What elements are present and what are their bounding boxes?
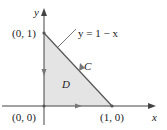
point-label-0-1: (0, 1): [12, 27, 36, 40]
path-label-c: C: [84, 60, 92, 72]
point-0-0: [42, 104, 45, 107]
x-axis-arrow-icon: [148, 103, 156, 109]
y-axis-arrow-icon: [41, 8, 47, 16]
curve-label: y = 1 − x: [78, 27, 118, 39]
green-theorem-diagram: (0, 1) (0, 0) (1, 0) y x y = 1 − x C D: [0, 0, 167, 130]
point-label-0-0: (0, 0): [12, 111, 36, 124]
point-1-0: [110, 104, 113, 107]
x-axis-label: x: [151, 111, 157, 123]
point-label-1-0: (1, 0): [100, 111, 124, 124]
point-0-1: [42, 31, 45, 34]
y-axis-label: y: [33, 6, 39, 18]
region-label-d: D: [61, 78, 70, 90]
curve-label-pointer: [58, 29, 76, 47]
